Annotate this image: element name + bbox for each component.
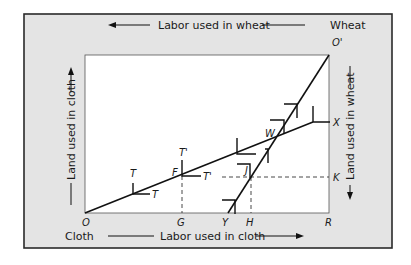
point-T-prime-vertical: T' — [179, 147, 188, 158]
cloth-origin-label: Cloth — [65, 230, 94, 243]
point-R: R — [325, 217, 332, 228]
point-F: F — [172, 167, 178, 178]
land-wheat-label: Land used in wheat — [344, 72, 357, 180]
point-T-horizontal: T — [152, 189, 159, 200]
point-X: X — [332, 117, 341, 128]
land-cloth-label: Land used in cloth — [65, 79, 78, 180]
labor-wheat-label: Labor used in wheat — [158, 19, 271, 32]
point-T-vertical: T — [130, 168, 137, 179]
point-Y: Y — [222, 217, 229, 228]
point-T-prime-horizontal: T' — [203, 171, 212, 182]
plot-box — [85, 55, 329, 213]
point-H: H — [246, 217, 254, 228]
labor-cloth-label: Labor used in cloth — [160, 230, 265, 243]
edgeworth-box-diagram: Labor used in wheat Wheat O' Cloth Labor… — [0, 0, 411, 265]
right-axis: Land used in wheat — [344, 66, 357, 200]
point-G: G — [177, 217, 185, 228]
point-O-prime: O' — [332, 37, 343, 48]
point-W: W — [265, 128, 276, 139]
wheat-origin-label: Wheat — [330, 19, 366, 32]
point-O: O — [82, 217, 90, 228]
